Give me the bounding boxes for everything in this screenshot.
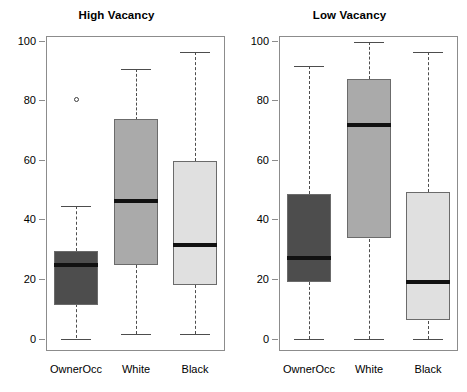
- y-axis-tick: [39, 100, 45, 101]
- y-axis-tick: [39, 41, 45, 42]
- box-iqr: [347, 79, 391, 238]
- whisker-lower: [428, 321, 429, 339]
- box-iqr: [287, 194, 331, 282]
- whisker-cap-upper: [121, 69, 151, 70]
- whisker-cap-upper: [180, 52, 210, 53]
- whisker-upper: [428, 52, 429, 192]
- y-axis-tick: [39, 279, 45, 280]
- y-axis-label: 40: [235, 214, 269, 225]
- y-axis-tick: [272, 41, 278, 42]
- y-axis-tick: [272, 219, 278, 220]
- y-axis-label: 100: [235, 36, 269, 47]
- y-axis-label: 80: [235, 95, 269, 106]
- whisker-lower: [309, 282, 310, 339]
- whisker-cap-lower: [354, 339, 384, 340]
- panel-low-vacancy: Low Vacancy020406080100OwnerOccWhiteBlac…: [233, 0, 466, 392]
- whisker-cap-lower: [294, 339, 324, 340]
- y-axis-label: 0: [2, 334, 36, 345]
- boxplot-figure: High Vacancy020406080100OwnerOccWhiteBla…: [0, 0, 467, 392]
- y-axis-tick: [272, 100, 278, 101]
- box-iqr: [54, 251, 98, 305]
- median-line: [347, 123, 391, 127]
- outlier-point: [74, 97, 79, 102]
- y-axis-label: 60: [2, 155, 36, 166]
- panel-high-vacancy: High Vacancy020406080100OwnerOccWhiteBla…: [0, 0, 233, 392]
- x-axis-label-black: Black: [155, 363, 235, 375]
- y-axis-label: 100: [2, 36, 36, 47]
- y-axis-label: 60: [235, 155, 269, 166]
- whisker-cap-lower: [121, 334, 151, 335]
- median-line: [287, 256, 331, 260]
- whisker-upper: [76, 206, 77, 251]
- y-axis-tick: [272, 339, 278, 340]
- y-axis-tick: [272, 160, 278, 161]
- whisker-lower: [195, 285, 196, 334]
- median-line: [173, 243, 217, 247]
- y-axis-label: 20: [235, 274, 269, 285]
- whisker-upper: [136, 69, 137, 120]
- median-line: [406, 280, 450, 284]
- box-iqr: [406, 192, 450, 320]
- whisker-cap-lower: [413, 339, 443, 340]
- x-axis-label-black: Black: [388, 363, 467, 375]
- panel-title: High Vacancy: [0, 8, 233, 22]
- y-axis-label: 20: [2, 274, 36, 285]
- y-axis-tick: [272, 279, 278, 280]
- whisker-lower: [76, 304, 77, 338]
- median-line: [114, 199, 158, 203]
- whisker-cap-upper: [61, 206, 91, 207]
- whisker-cap-upper: [354, 42, 384, 43]
- box-iqr: [114, 119, 158, 265]
- y-axis-tick: [39, 339, 45, 340]
- y-axis-tick: [39, 160, 45, 161]
- y-axis-tick: [39, 219, 45, 220]
- median-line: [54, 263, 98, 267]
- whisker-lower: [136, 265, 137, 334]
- y-axis-label: 0: [235, 334, 269, 345]
- whisker-cap-upper: [294, 66, 324, 67]
- whisker-upper: [309, 66, 310, 194]
- whisker-upper: [195, 52, 196, 161]
- whisker-upper: [369, 42, 370, 79]
- y-axis-label: 80: [2, 95, 36, 106]
- y-axis-label: 40: [2, 214, 36, 225]
- panel-title: Low Vacancy: [233, 8, 466, 22]
- whisker-cap-lower: [180, 334, 210, 335]
- box-iqr: [173, 161, 217, 285]
- whisker-cap-upper: [413, 52, 443, 53]
- whisker-lower: [369, 239, 370, 339]
- whisker-cap-lower: [61, 339, 91, 340]
